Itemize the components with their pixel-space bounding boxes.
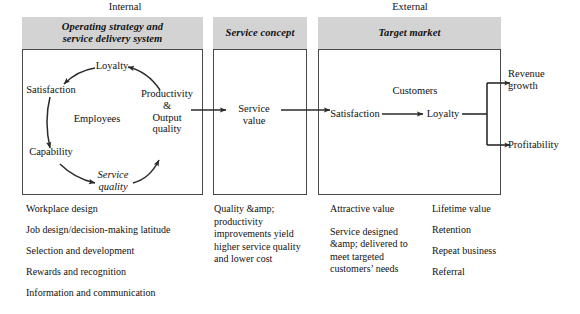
list-item: Attractive value: [330, 203, 430, 216]
arrow-satisfaction-to-capability: [47, 97, 50, 148]
list-item: Job design/decision-making latitude: [26, 224, 216, 236]
cycle-center-label-employees: Employees: [58, 113, 136, 125]
list-item: customers’ needs: [330, 263, 430, 276]
cycle-node-service-quality-line2: quality: [85, 181, 141, 193]
list-item: higher service quality: [214, 241, 324, 254]
customer-satisfaction-node: Satisfaction: [322, 108, 388, 120]
cycle-node-satisfaction: Satisfaction: [16, 84, 86, 96]
cycle-node-productivity-line2: &: [137, 100, 197, 112]
outcome-revenue-growth: Revenue growth: [508, 68, 570, 92]
list-item: improvements yield: [214, 228, 324, 241]
list-item: Rewards and recognition: [26, 266, 216, 278]
list-item: Quality &amp; productivity: [214, 203, 324, 228]
cycle-node-capability: Capability: [18, 146, 84, 158]
list-item: Retention: [432, 224, 552, 236]
arrow-loyalty-to-outcomes: [462, 83, 510, 145]
list-item: &amp; delivered to: [330, 238, 430, 251]
list-item: Workplace design: [26, 203, 216, 215]
list-item: and lower cost: [214, 253, 324, 266]
outcome-profitability: Profitability: [508, 139, 578, 151]
list-item: Repeat business: [432, 245, 552, 257]
outcome-revenue-growth-line2: growth: [508, 80, 570, 92]
cycle-node-productivity-line4: quality: [137, 123, 197, 135]
list-internal-drivers: Workplace design Job design/decision-mak…: [26, 203, 216, 308]
cycle-node-productivity-output-quality: Productivity & Output quality: [137, 88, 197, 135]
cycle-node-loyalty: Loyalty: [82, 60, 142, 72]
list-target-market-left: Attractive value Service designed &amp; …: [330, 203, 430, 276]
cycle-node-productivity-line1: Productivity: [137, 88, 197, 100]
list-item: Information and communication: [26, 287, 216, 299]
list-item: meet targeted: [330, 251, 430, 264]
list-item: Lifetime value: [432, 203, 552, 215]
list-service-concept-notes: Quality &amp; productivity improvements …: [214, 203, 324, 266]
list-item: Selection and development: [26, 245, 216, 257]
figure-canvas: Internal External Operating strategy and…: [0, 0, 580, 314]
cycle-node-service-quality-line1: Service: [85, 169, 141, 181]
service-value-node: Service value: [230, 103, 278, 127]
list-item: Service designed: [330, 226, 430, 239]
list-item: Referral: [432, 266, 552, 278]
cycle-node-productivity-line3: Output: [137, 112, 197, 124]
customers-center-label: Customers: [375, 85, 455, 97]
outcome-revenue-growth-line1: Revenue: [508, 68, 570, 80]
service-value-line1: Service: [230, 103, 278, 115]
service-value-line2: value: [230, 115, 278, 127]
list-target-market-right: Lifetime value Retention Repeat business…: [432, 203, 552, 287]
cycle-node-service-quality: Service quality: [85, 169, 141, 193]
customer-loyalty-node: Loyalty: [420, 108, 466, 120]
